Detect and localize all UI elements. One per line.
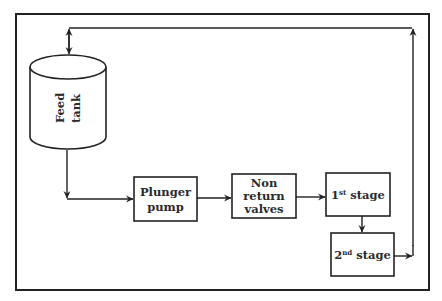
valves-label-1: Non [251,176,278,190]
plunger-pump-label-1: Plunger [140,185,192,199]
process-flow-diagram: Feed tank Plunger pump Non return valves… [0,0,442,301]
stage1-box: 1st stage [326,173,390,216]
valves-label-3: valves [244,202,284,216]
plunger-pump-box: Plunger pump [134,177,197,221]
feed-tank-label-1: Feed [53,93,67,123]
non-return-valves-box: Non return valves [232,174,296,218]
valves-label-2: return [243,189,285,203]
feed-tank: Feed tank [30,55,106,149]
stage2-box: 2nd stage [331,233,394,276]
feed-tank-label-2: tank [69,93,83,123]
plunger-pump-label-2: pump [147,200,184,214]
diagram-canvas: Feed tank Plunger pump Non return valves… [0,0,442,301]
